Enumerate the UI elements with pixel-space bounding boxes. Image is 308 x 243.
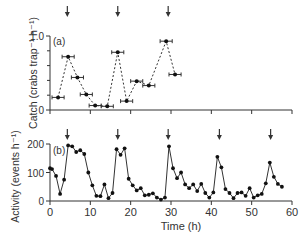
data-point	[167, 144, 171, 148]
arrow-down-icon	[115, 135, 120, 140]
data-point	[147, 193, 151, 197]
chart-svg: 01.0(a)Catch (crabs trap⁻¹ h⁻¹) 01002000…	[0, 0, 308, 243]
data-point	[58, 192, 62, 196]
data-point	[90, 183, 94, 187]
panel-a-catch: 01.0(a)Catch (crabs trap⁻¹ h⁻¹)	[27, 6, 292, 129]
y-axis-label-b: Activity (events h⁻¹)	[9, 130, 21, 222]
data-point	[99, 194, 103, 198]
data-point	[248, 186, 252, 190]
data-point	[93, 104, 97, 108]
data-point	[66, 55, 70, 59]
arrow-down-icon	[65, 12, 70, 17]
y-tick-label: 200	[27, 139, 44, 150]
x-tick-label: 30	[165, 206, 177, 218]
data-point	[268, 161, 272, 165]
data-point	[171, 166, 175, 170]
data-point	[211, 191, 215, 195]
data-point	[183, 183, 187, 187]
data-point	[116, 50, 120, 54]
data-point	[203, 191, 207, 195]
data-point	[199, 182, 203, 186]
x-axis-label: Time (h)	[161, 220, 202, 232]
data-point	[125, 99, 129, 103]
data-point	[135, 79, 139, 83]
data-point	[195, 189, 199, 193]
data-point	[78, 148, 82, 152]
data-point	[232, 196, 236, 200]
data-point	[75, 75, 79, 79]
data-point	[135, 189, 139, 193]
data-point	[215, 155, 219, 159]
data-point	[256, 193, 260, 197]
data-point	[107, 196, 111, 200]
data-point	[115, 147, 119, 151]
y-tick-label: 100	[27, 168, 44, 179]
data-point	[94, 194, 98, 198]
data-point	[155, 196, 159, 200]
chart-container: 01.0(a)Catch (crabs trap⁻¹ h⁻¹) 01002000…	[0, 0, 308, 243]
y-tick-label: 0	[38, 105, 44, 116]
data-point	[260, 192, 264, 196]
data-point	[103, 183, 107, 187]
data-point	[119, 153, 123, 157]
data-point	[224, 187, 228, 191]
data-point	[111, 191, 115, 195]
panel-b-activity: 01002000102030405060(b)Activity (events …	[9, 129, 298, 232]
data-point	[164, 39, 168, 43]
data-point	[62, 178, 66, 182]
data-point	[228, 191, 232, 195]
data-point	[131, 183, 135, 187]
arrow-down-icon	[115, 12, 120, 17]
arrow-down-icon	[166, 12, 171, 17]
data-point	[82, 152, 86, 156]
data-point	[74, 150, 78, 154]
data-point	[220, 165, 224, 169]
panel-label-a: (a)	[53, 36, 65, 47]
data-point	[50, 167, 54, 171]
data-point	[280, 185, 284, 189]
panel-label-b: (b)	[53, 145, 65, 156]
data-point	[56, 95, 60, 99]
data-point	[272, 175, 276, 179]
data-point	[191, 183, 195, 187]
data-point	[187, 186, 191, 190]
arrow-down-icon	[217, 135, 222, 140]
x-tick-label: 60	[286, 206, 298, 218]
data-point	[151, 191, 155, 195]
x-tick-label: 50	[246, 206, 258, 218]
y-tick-label: 0	[38, 196, 44, 207]
data-point	[244, 194, 248, 198]
data-point	[159, 198, 163, 202]
data-point	[105, 104, 109, 108]
data-point	[86, 171, 90, 175]
data-point	[84, 92, 88, 96]
data-point	[276, 182, 280, 186]
data-point	[236, 191, 240, 195]
data-point	[147, 84, 151, 88]
data-point	[240, 191, 244, 195]
data-point	[70, 144, 74, 148]
arrow-down-icon	[166, 135, 171, 140]
data-point	[252, 196, 256, 200]
data-point	[54, 174, 58, 178]
data-point	[179, 171, 183, 175]
data-point	[175, 176, 179, 180]
x-tick-label: 10	[84, 206, 96, 218]
data-point	[163, 196, 167, 200]
data-point	[123, 146, 127, 150]
x-tick-label: 40	[205, 206, 217, 218]
y-axis-label-a: Catch (crabs trap⁻¹ h⁻¹)	[27, 17, 39, 129]
arrow-down-icon	[268, 135, 273, 140]
data-point	[66, 144, 70, 148]
data-point	[127, 177, 131, 181]
x-tick-label: 20	[125, 206, 137, 218]
arrow-down-icon	[65, 135, 70, 140]
data-point	[264, 181, 268, 185]
x-tick-label: 0	[47, 206, 53, 218]
data-point	[143, 193, 147, 197]
data-point	[207, 196, 211, 200]
data-point	[139, 186, 143, 190]
data-point	[173, 72, 177, 76]
